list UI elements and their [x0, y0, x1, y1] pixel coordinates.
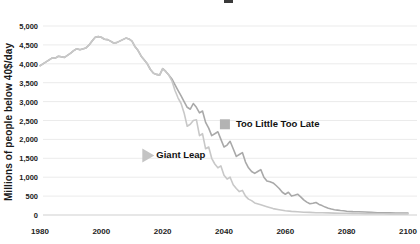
annotation-label-giant-leap: Giant Leap [156, 149, 205, 160]
y-tick-label: 4,500 [0, 41, 38, 50]
y-tick-label: 1,500 [0, 154, 38, 163]
chart-canvas: Millions of people below 40$/day 5,0004,… [0, 0, 420, 244]
y-tick-label: 5,000 [0, 22, 38, 31]
x-tick-label: 2080 [330, 227, 364, 236]
y-tick-label: 500 [0, 192, 38, 201]
annotation-label-too-little-too-late: Too Little Too Late [236, 118, 320, 129]
y-tick-label: 2,000 [0, 135, 38, 144]
x-tick-label: 2020 [146, 227, 180, 236]
y-tick-label: 3,500 [0, 79, 38, 88]
y-tick-label: 0 [0, 211, 38, 220]
y-tick-label: 3,000 [0, 98, 38, 107]
x-tick-label: 2060 [268, 227, 302, 236]
line-chart-plot-area [0, 0, 420, 244]
y-tick-label: 4,000 [0, 60, 38, 69]
y-tick-label: 1,000 [0, 173, 38, 182]
y-tick-label: 2,500 [0, 117, 38, 126]
x-tick-label: 2040 [207, 227, 241, 236]
x-tick-label: 2100 [391, 227, 420, 236]
x-tick-label: 2000 [84, 227, 118, 236]
x-tick-label: 1980 [23, 227, 57, 236]
